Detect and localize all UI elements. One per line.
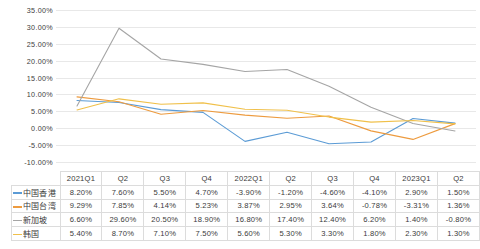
table-header-row: 2021Q1Q2Q3Q42022Q1Q2Q3Q42023Q1Q2: [12, 172, 480, 186]
table-cell: 7.60%: [102, 185, 144, 199]
table-cell: 1.40%: [396, 213, 438, 227]
table-column-header: Q4: [354, 172, 396, 186]
table-column-header: Q2: [102, 172, 144, 186]
table-column-header: Q3: [312, 172, 354, 186]
table-row: 新加坡6.60%29.60%20.50%18.90%16.80%17.40%12…: [12, 213, 480, 227]
table-cell: 2.30%: [396, 227, 438, 241]
table-cell: 8.70%: [102, 227, 144, 241]
legend-label: 韩国: [23, 230, 39, 239]
table-cell: 1.50%: [437, 185, 479, 199]
table-cell: 8.20%: [60, 185, 102, 199]
y-axis-tick-label: 20.00%: [27, 56, 53, 65]
table-cell: 3.30%: [312, 227, 354, 241]
table-cell: 4.70%: [186, 185, 228, 199]
y-axis: 35.00%30.00%25.00%20.00%15.00%10.00%5.00…: [0, 0, 56, 172]
series-line: [77, 28, 455, 131]
table-row: 韩国5.40%8.70%7.10%7.50%5.60%5.30%3.30%1.8…: [12, 227, 480, 241]
table-cell: 5.40%: [60, 227, 102, 241]
table-cell: -4.10%: [354, 185, 396, 199]
legend-item-新加坡[interactable]: 新加坡: [12, 213, 61, 227]
data-table: 2021Q1Q2Q3Q42022Q1Q2Q3Q42023Q1Q2 中国香港8.2…: [11, 171, 480, 241]
table-column-header: Q2: [270, 172, 312, 186]
table-cell: -3.90%: [228, 185, 270, 199]
table-cell: 20.50%: [144, 213, 186, 227]
legend-line-icon: [13, 220, 22, 222]
legend-label: 新加坡: [23, 216, 48, 225]
series-line: [77, 99, 455, 124]
legend-line-icon: [13, 234, 22, 236]
legend-line-icon: [13, 206, 22, 208]
data-table-legend: 2021Q1Q2Q3Q42022Q1Q2Q3Q42023Q1Q2 中国香港8.2…: [11, 171, 480, 249]
table-cell: 3.64%: [312, 199, 354, 213]
legend-label: 中国香港: [23, 189, 56, 198]
table-cell: 7.10%: [144, 227, 186, 241]
table-corner-cell: [12, 172, 61, 186]
table-cell: 4.14%: [144, 199, 186, 213]
gridline: [56, 162, 476, 163]
table-cell: 3.87%: [228, 199, 270, 213]
table-cell: 6.20%: [354, 213, 396, 227]
y-axis-tick-label: -10.00%: [24, 158, 53, 167]
plot-area: [56, 10, 476, 162]
table-row: 中国台湾9.29%7.85%4.14%5.23%3.87%2.95%3.64%-…: [12, 199, 480, 213]
chart-screenshot: 35.00%30.00%25.00%20.00%15.00%10.00%5.00…: [0, 0, 480, 249]
y-axis-tick-label: 35.00%: [27, 6, 53, 15]
table-cell: 16.80%: [228, 213, 270, 227]
table-column-header: Q2: [437, 172, 479, 186]
table-column-header: Q4: [186, 172, 228, 186]
table-cell: 1.80%: [354, 227, 396, 241]
table-cell: 2.95%: [270, 199, 312, 213]
table-cell: 29.60%: [102, 213, 144, 227]
y-axis-tick-label: 10.00%: [27, 90, 53, 99]
table-cell: 2.90%: [396, 185, 438, 199]
table-cell: -0.80%: [437, 213, 479, 227]
table-row: 中国香港8.20%7.60%5.50%4.70%-3.90%-1.20%-4.6…: [12, 185, 480, 199]
table-cell: -0.78%: [354, 199, 396, 213]
table-cell: 5.50%: [144, 185, 186, 199]
table-cell: 5.30%: [270, 227, 312, 241]
legend-item-中国台湾[interactable]: 中国台湾: [12, 199, 61, 213]
y-axis-tick-label: -5.00%: [28, 141, 53, 150]
table-column-header: 2023Q1: [396, 172, 438, 186]
y-axis-tick-label: 15.00%: [27, 73, 53, 82]
table-cell: 7.85%: [102, 199, 144, 213]
line-chart: 35.00%30.00%25.00%20.00%15.00%10.00%5.00…: [0, 0, 480, 172]
table-cell: 7.50%: [186, 227, 228, 241]
table-column-header: 2022Q1: [228, 172, 270, 186]
y-axis-tick-label: 30.00%: [27, 22, 53, 31]
table-column-header: 2021Q1: [60, 172, 102, 186]
table-column-header: Q3: [144, 172, 186, 186]
table-cell: 6.60%: [60, 213, 102, 227]
table-cell: 18.90%: [186, 213, 228, 227]
table-cell: 12.40%: [312, 213, 354, 227]
table-cell: 1.30%: [437, 227, 479, 241]
y-axis-tick-label: 5.00%: [31, 107, 53, 116]
table-cell: 5.60%: [228, 227, 270, 241]
series-line: [77, 101, 455, 144]
legend-item-韩国[interactable]: 韩国: [12, 227, 61, 241]
table-cell: 1.36%: [437, 199, 479, 213]
table-cell: 9.29%: [60, 199, 102, 213]
y-axis-tick-label: 0.00%: [31, 124, 53, 133]
table-cell: -1.20%: [270, 185, 312, 199]
table-cell: 5.23%: [186, 199, 228, 213]
legend-item-中国香港[interactable]: 中国香港: [12, 185, 61, 199]
table-cell: -3.31%: [396, 199, 438, 213]
series-lines: [56, 10, 476, 162]
legend-line-icon: [13, 192, 22, 194]
table-cell: -4.60%: [312, 185, 354, 199]
table-cell: 17.40%: [270, 213, 312, 227]
legend-label: 中国台湾: [23, 202, 56, 211]
y-axis-tick-label: 25.00%: [27, 39, 53, 48]
table-body: 中国香港8.20%7.60%5.50%4.70%-3.90%-1.20%-4.6…: [12, 185, 480, 240]
